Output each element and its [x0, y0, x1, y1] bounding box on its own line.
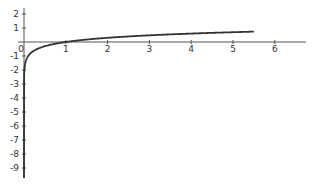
x-tick-label: 1	[63, 44, 69, 54]
x-tick-label: 4	[188, 44, 194, 54]
x-tick-label: 6	[272, 44, 278, 54]
axes	[18, 8, 306, 178]
x-tick-label: 3	[147, 44, 153, 54]
chart: 123456021-1-2-3-4-5-6-7-8-9	[0, 0, 312, 185]
x-tick-label: 2	[105, 44, 111, 54]
y-tick-label: 1	[13, 23, 19, 33]
ticks	[22, 14, 275, 168]
y-tick-label: -8	[10, 149, 19, 159]
y-tick-label: -9	[10, 163, 19, 173]
y-tick-label: -7	[10, 135, 19, 145]
y-tick-label: -2	[10, 65, 19, 75]
y-tick-label: -1	[10, 51, 19, 61]
log-curve	[24, 32, 254, 178]
x-tick-label: 5	[230, 44, 236, 54]
y-tick-label: -5	[10, 107, 19, 117]
tick-labels: 123456021-1-2-3-4-5-6-7-8-9	[10, 9, 278, 173]
y-tick-label: -6	[10, 121, 19, 131]
origin-label: 0	[18, 44, 24, 54]
y-tick-label: -4	[10, 93, 19, 103]
y-tick-label: -3	[10, 79, 19, 89]
y-tick-label: 2	[13, 9, 19, 19]
